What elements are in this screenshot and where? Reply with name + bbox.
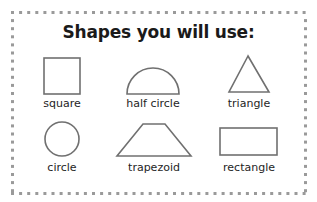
label-trapezoid: trapezoid (109, 161, 199, 174)
label-half-circle: half circle (108, 97, 198, 110)
label-circle: circle (17, 161, 107, 174)
rectangle-shape (220, 128, 277, 155)
square-shape (44, 58, 80, 94)
label-square: square (17, 97, 107, 110)
circle-shape (45, 122, 79, 156)
half-circle-shape (127, 68, 179, 94)
label-rectangle: rectangle (204, 161, 294, 174)
worksheet: Shapes you will use: square half circle … (0, 0, 317, 202)
trapezoid-shape (117, 124, 191, 156)
label-triangle: triangle (204, 97, 294, 110)
triangle-shape (229, 56, 269, 92)
